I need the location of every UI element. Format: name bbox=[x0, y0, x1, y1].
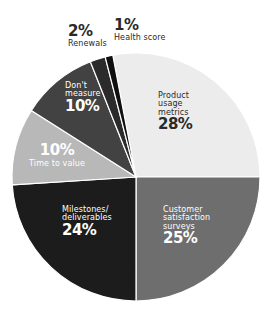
label-percent: 1% bbox=[114, 18, 166, 34]
pie-slice-milestones-deliverables bbox=[12, 177, 136, 301]
label-percent: 2% bbox=[68, 24, 107, 40]
label-percent: 10% bbox=[65, 99, 101, 115]
label-text: Health score bbox=[114, 34, 166, 42]
label-text: Time to value bbox=[26, 160, 88, 168]
label-percent: 28% bbox=[158, 117, 192, 133]
label-health-score: 1% Health score bbox=[114, 18, 166, 42]
label-text: Renewals bbox=[68, 40, 107, 48]
label-renewals: 2% Renewals bbox=[68, 24, 107, 48]
label-dont-measure: Don't measure 10% bbox=[65, 82, 101, 115]
label-percent: 24% bbox=[62, 223, 112, 239]
label-percent: 10% bbox=[26, 143, 88, 159]
label-milestones: Milestones/ deliverables 24% bbox=[62, 206, 112, 239]
label-time-to-value: 10% Time to value bbox=[26, 143, 88, 168]
label-percent: 25% bbox=[163, 231, 210, 247]
label-customer-satisfaction: Customer satisfaction surveys 25% bbox=[163, 206, 210, 247]
label-product-usage: Product usage metrics 28% bbox=[158, 92, 192, 133]
